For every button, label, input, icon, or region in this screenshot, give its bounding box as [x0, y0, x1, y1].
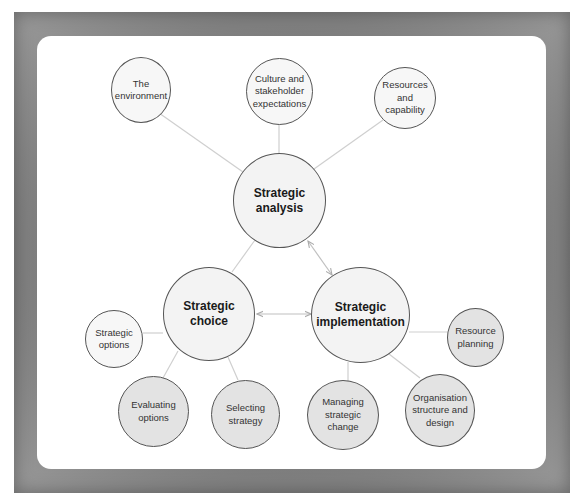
- node-strategic-options: Strategic options: [85, 310, 143, 368]
- node-organisation-structure-design: Organisation structure and design: [405, 374, 475, 447]
- arrow-analysis-implementation: [308, 241, 332, 275]
- node-label: Resources and capability: [382, 79, 427, 116]
- line-evaluating-options: [163, 351, 178, 378]
- node-evaluating-options: Evaluating options: [118, 376, 189, 447]
- node-culture-stakeholder-expectations: Culture and stakeholder expectations: [246, 58, 313, 125]
- node-strategic-choice: Strategic choice: [163, 267, 255, 361]
- node-label: Culture and stakeholder expectations: [253, 73, 306, 110]
- node-resources-capability: Resources and capability: [374, 67, 436, 129]
- node-label: Resource planning: [455, 325, 496, 350]
- node-label: Strategic choice: [183, 299, 234, 329]
- node-label: Strategic options: [95, 327, 133, 352]
- node-managing-strategic-change: Managing strategic change: [307, 380, 379, 450]
- node-label: The environment: [115, 78, 167, 103]
- node-label: Strategic analysis: [254, 186, 305, 216]
- node-strategic-analysis: Strategic analysis: [233, 153, 326, 248]
- node-label: Strategic implementation: [316, 300, 405, 330]
- node-resource-planning: Resource planning: [447, 308, 504, 367]
- node-label: Managing strategic change: [322, 396, 364, 433]
- node-strategic-implementation: Strategic implementation: [311, 267, 410, 363]
- node-label: Organisation structure and design: [412, 392, 467, 429]
- node-label: Selecting strategy: [226, 402, 265, 427]
- line-environment: [159, 113, 243, 172]
- node-label: Evaluating options: [131, 399, 175, 424]
- line-analysis-choice: [232, 240, 255, 272]
- line-resources: [314, 120, 383, 169]
- line-selecting-strategy: [228, 357, 238, 380]
- node-selecting-strategy: Selecting strategy: [211, 380, 280, 449]
- node-the-environment: The environment: [111, 57, 171, 123]
- line-organisation: [389, 354, 420, 378]
